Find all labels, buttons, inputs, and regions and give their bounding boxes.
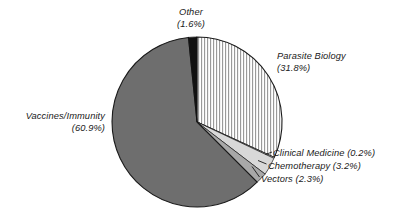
pie-label-vaccines-immunity-name: Vaccines/Immunity xyxy=(5,110,105,122)
pie-chart-graphic xyxy=(0,0,409,218)
pie-label-chemotherapy: Chemotherapy (3.2%) xyxy=(268,160,398,172)
pie-label-parasite-biology-name: Parasite Biology xyxy=(277,50,401,62)
pie-label-other: Other (1.6%) xyxy=(141,6,241,30)
pie-label-parasite-biology: Parasite Biology (31.8%) xyxy=(277,50,401,74)
pie-label-other-name: Other xyxy=(141,6,241,18)
pie-chart-figure: Other (1.6%) Parasite Biology (31.8%) Va… xyxy=(0,0,409,218)
pie-label-vectors: Vectors (2.3%) xyxy=(261,173,381,185)
pie-label-parasite-biology-value: (31.8%) xyxy=(277,62,401,74)
pie-label-clinical-medicine: Clinical Medicine (0.2%) xyxy=(273,147,409,159)
pie-label-other-value: (1.6%) xyxy=(141,18,241,30)
pie-label-vaccines-immunity-value: (60.9%) xyxy=(5,122,105,134)
pie-label-vaccines-immunity: Vaccines/Immunity (60.9%) xyxy=(5,110,105,134)
